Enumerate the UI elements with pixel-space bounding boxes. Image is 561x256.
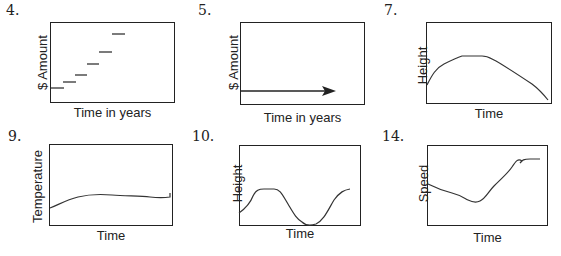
curve: [0, 0, 561, 256]
y-axis-label: Speed: [416, 154, 431, 214]
x-axis-label: Time: [427, 230, 548, 245]
